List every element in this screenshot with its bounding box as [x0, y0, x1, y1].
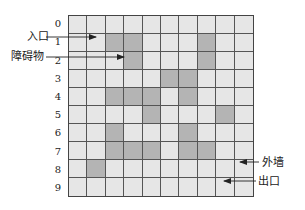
grid-cell	[161, 124, 179, 142]
grid-cell	[161, 52, 179, 70]
grid-cell	[235, 160, 253, 178]
grid-cell	[235, 124, 253, 142]
grid-cell	[198, 124, 216, 142]
grid-cell	[235, 52, 253, 70]
grid-cell	[235, 142, 253, 160]
obstacle-cell	[198, 142, 216, 160]
grid-cell	[87, 88, 105, 106]
obstacle-cell	[106, 88, 124, 106]
obstacle-cell	[143, 142, 161, 160]
maze-grid	[68, 15, 254, 197]
grid-cell	[179, 160, 197, 178]
grid-cell	[216, 34, 234, 52]
grid-cell	[87, 16, 105, 34]
grid-cell	[87, 142, 105, 160]
grid-cell	[69, 70, 87, 88]
grid-cell	[235, 88, 253, 106]
grid-cell	[235, 16, 253, 34]
row-label: 3	[52, 73, 64, 85]
grid-cell	[198, 16, 216, 34]
grid-cell	[87, 178, 105, 196]
grid-cell	[124, 124, 142, 142]
grid-cell	[69, 124, 87, 142]
grid-cell	[216, 70, 234, 88]
grid-cell	[179, 52, 197, 70]
grid-cell	[87, 70, 105, 88]
row-label: 0	[52, 18, 64, 30]
grid-cell	[216, 142, 234, 160]
grid-cell	[106, 52, 124, 70]
grid-cell	[179, 34, 197, 52]
row-label: 2	[52, 55, 64, 67]
grid-cell	[179, 106, 197, 124]
grid-cell	[124, 178, 142, 196]
obstacle-cell	[198, 52, 216, 70]
obstacle-label: 障碍物	[11, 50, 44, 63]
grid-cell	[87, 34, 105, 52]
grid-cell	[143, 34, 161, 52]
grid-cell	[235, 70, 253, 88]
row-label: 5	[52, 109, 64, 121]
obstacle-cell	[106, 124, 124, 142]
grid-cell	[69, 52, 87, 70]
grid-cell	[106, 106, 124, 124]
grid-cell	[87, 124, 105, 142]
obstacle-cell	[179, 124, 197, 142]
grid-cell	[161, 142, 179, 160]
exit-label: 出口	[258, 175, 280, 188]
grid-cell	[106, 160, 124, 178]
grid-cell	[179, 16, 197, 34]
row-label: 4	[52, 91, 64, 103]
grid-cell	[69, 34, 87, 52]
obstacle-cell	[179, 70, 197, 88]
grid-cell	[161, 106, 179, 124]
grid-cell	[69, 160, 87, 178]
obstacle-cell	[143, 106, 161, 124]
grid-cell	[124, 70, 142, 88]
grid-cell	[161, 178, 179, 196]
grid-cell	[106, 70, 124, 88]
grid-cell	[87, 106, 105, 124]
grid-cell	[143, 52, 161, 70]
grid-cell	[198, 88, 216, 106]
row-label: 9	[52, 182, 64, 194]
obstacle-cell	[124, 34, 142, 52]
outer-wall-label: 外墙	[262, 156, 284, 169]
grid-cell	[161, 160, 179, 178]
obstacle-cell	[179, 88, 197, 106]
obstacle-cell	[161, 70, 179, 88]
entrance-label: 入口	[27, 30, 49, 43]
grid-cell	[235, 106, 253, 124]
grid-cell	[198, 178, 216, 196]
grid-cell	[216, 52, 234, 70]
row-label: 6	[52, 127, 64, 139]
grid-cell	[143, 124, 161, 142]
grid-cell	[106, 178, 124, 196]
obstacle-cell	[216, 106, 234, 124]
grid-cell	[161, 88, 179, 106]
grid-cell	[216, 178, 234, 196]
grid-cell	[161, 34, 179, 52]
obstacle-cell	[106, 142, 124, 160]
grid-cell	[69, 106, 87, 124]
grid-cell	[235, 34, 253, 52]
obstacle-cell	[198, 34, 216, 52]
grid-cell	[216, 88, 234, 106]
grid-cell	[69, 178, 87, 196]
obstacle-cell	[124, 88, 142, 106]
grid-cell	[143, 16, 161, 34]
grid-cell	[235, 178, 253, 196]
grid-cell	[106, 16, 124, 34]
grid-cell	[143, 178, 161, 196]
obstacle-cell	[106, 34, 124, 52]
row-label: 8	[52, 164, 64, 176]
grid-cell	[198, 106, 216, 124]
row-label: 1	[52, 36, 64, 48]
grid-cell	[87, 52, 105, 70]
obstacle-cell	[179, 142, 197, 160]
grid-cell	[143, 70, 161, 88]
grid-cell	[69, 142, 87, 160]
grid-cell	[198, 160, 216, 178]
grid-cell	[143, 160, 161, 178]
row-label: 7	[52, 146, 64, 158]
